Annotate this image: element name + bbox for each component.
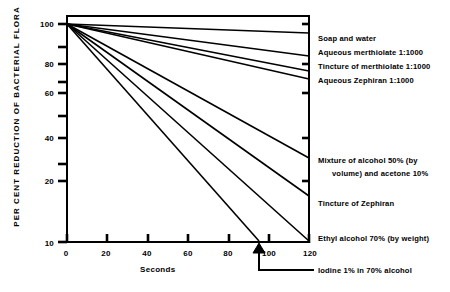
annotation-iodine — [253, 243, 314, 271]
series-line-tincture-zephiran — [67, 24, 309, 196]
chart-figure: PER CENT REDUCTION OF BACTERIAL FLORA 10… — [0, 0, 450, 292]
annotation-arrowhead-icon — [253, 243, 265, 253]
data-series-group — [67, 24, 309, 241]
chart-plot-svg — [0, 0, 450, 292]
y-axis-ticks — [58, 24, 67, 242]
series-line-iodine — [67, 24, 259, 241]
series-line-mixture-alcohol-acetone — [67, 24, 309, 158]
series-line-ethyl-alcohol — [67, 24, 309, 241]
